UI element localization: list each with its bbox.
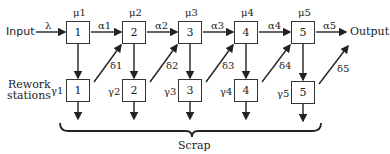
rework-station-4: 4 (234, 79, 258, 102)
delta-label-3: δ3 (222, 60, 234, 72)
input-label: Input (6, 26, 34, 38)
mu-label-1: μ1 (73, 7, 86, 19)
gamma-label-1: γ1 (51, 85, 63, 97)
delta-label-5: δ5 (337, 63, 349, 75)
delta-label-4: δ4 (279, 60, 291, 72)
rework-number: 4 (243, 84, 250, 97)
production-station-5: 5 (291, 21, 315, 44)
station-number: 5 (300, 26, 307, 39)
gamma-label-2: γ2 (108, 86, 120, 98)
alpha-label-1: α1 (98, 20, 111, 32)
station-number: 3 (187, 26, 194, 39)
arrival-rate-label: λ (45, 20, 51, 32)
rework-station-1: 1 (66, 79, 90, 102)
mu-label-2: μ2 (129, 7, 142, 19)
production-station-2: 2 (122, 21, 146, 44)
station-number: 4 (243, 26, 250, 39)
rework-station-5: 5 (291, 81, 315, 104)
rework-station-2: 2 (122, 79, 146, 102)
alpha-label-4: α4 (268, 20, 281, 32)
alpha-label-2: α2 (155, 20, 168, 32)
rework-station-3: 3 (178, 79, 202, 102)
station-number: 1 (75, 26, 82, 39)
rework-label-line2: stations (7, 90, 51, 102)
gamma-label-3: γ3 (164, 86, 176, 98)
rework-number: 3 (187, 84, 194, 97)
production-station-3: 3 (178, 21, 202, 44)
rework-number: 1 (75, 84, 82, 97)
gamma-label-4: γ4 (220, 86, 232, 98)
mu-label-4: μ4 (241, 7, 254, 19)
rework-number: 2 (131, 84, 138, 97)
rework-number: 5 (300, 86, 307, 99)
station-number: 2 (131, 26, 138, 39)
output-label: Output (350, 26, 389, 38)
production-station-1: 1 (66, 21, 90, 44)
delta-label-1: δ1 (110, 60, 122, 72)
scrap-label: Scrap (178, 140, 211, 152)
rework-line-diagram: Input λ Output Rework stations Scrap 1 1… (0, 0, 390, 154)
mu-label-5: μ5 (298, 7, 311, 19)
delta-label-2: δ2 (166, 60, 178, 72)
mu-label-3: μ3 (185, 7, 198, 19)
gamma-label-5: γ5 (277, 88, 289, 100)
production-station-4: 4 (234, 21, 258, 44)
alpha-label-5: α5 (323, 20, 336, 32)
alpha-label-3: α3 (211, 20, 224, 32)
